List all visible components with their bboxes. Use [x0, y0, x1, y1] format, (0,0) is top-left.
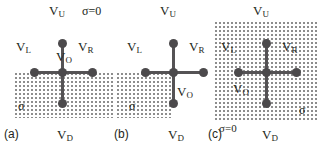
- figure-canvas: VU VL VR VO VD σ σ=0 (a): [0, 0, 319, 150]
- label-vr-a-text: V: [78, 39, 87, 54]
- label-vl-a-text: V: [16, 39, 25, 54]
- label-vl-b-sub: L: [136, 45, 142, 55]
- stipple-region-b: [115, 71, 173, 118]
- node-down-a: [58, 99, 67, 108]
- node-up-b: [169, 39, 178, 48]
- panel-c: VU VL VR VO VD σ σ=0 (c): [208, 0, 319, 150]
- node-left-b: [141, 68, 150, 77]
- node-up-a: [58, 39, 67, 48]
- label-vl-a: VL: [16, 40, 31, 53]
- label-vr-c: VR: [282, 40, 297, 53]
- label-vu-c-sub: U: [262, 9, 269, 19]
- label-vu-c-text: V: [253, 3, 262, 18]
- label-vo-c-text: V: [233, 81, 242, 96]
- label-sigma-zero-a: σ=0: [82, 5, 101, 17]
- label-vr-b: VR: [189, 40, 204, 53]
- label-vu-c: VU: [253, 4, 269, 17]
- label-vd-c-sub: D: [271, 133, 278, 143]
- label-vd-a: VD: [57, 128, 73, 141]
- label-vl-b: VL: [127, 40, 142, 53]
- label-vd-b: VD: [168, 128, 184, 141]
- label-vd-b-text: V: [168, 127, 177, 142]
- label-vl-a-sub: L: [25, 45, 31, 55]
- label-vd-c: VD: [262, 128, 278, 141]
- label-sigma-b: σ: [129, 100, 135, 112]
- panel-tag-a: (a): [4, 128, 19, 140]
- label-vo-a: VO: [56, 50, 72, 63]
- label-vl-b-text: V: [127, 39, 136, 54]
- label-vu-a-sub: U: [58, 9, 65, 19]
- node-right-c: [292, 68, 301, 77]
- label-vo-b: VO: [177, 85, 193, 98]
- panel-b: VU VL VR VO VD σ (b): [108, 0, 208, 150]
- label-vu-b: VU: [160, 4, 176, 17]
- label-sigma-c: σ: [299, 104, 305, 116]
- panel-tag-c: (c): [208, 128, 222, 140]
- label-vl-c-text: V: [221, 39, 230, 54]
- label-vo-c: VO: [233, 82, 249, 95]
- label-vd-a-text: V: [57, 127, 66, 142]
- label-vr-c-text: V: [282, 39, 291, 54]
- label-vo-a-text: V: [56, 49, 65, 64]
- label-vr-a-sub: R: [87, 45, 93, 55]
- label-vr-b-sub: R: [198, 45, 204, 55]
- label-vo-a-sub: O: [65, 55, 72, 65]
- label-vo-b-sub: O: [186, 90, 193, 100]
- label-vu-b-sub: U: [169, 9, 176, 19]
- label-vr-a: VR: [78, 40, 93, 53]
- label-vl-c-sub: L: [230, 45, 236, 55]
- node-center-b: [169, 68, 178, 77]
- label-vo-c-sub: O: [242, 87, 249, 97]
- label-vl-c: VL: [221, 40, 236, 53]
- node-center-c: [262, 68, 271, 77]
- node-down-c: [262, 99, 271, 108]
- label-vr-c-sub: R: [291, 45, 297, 55]
- node-right-b: [199, 68, 208, 77]
- label-vo-b-text: V: [177, 84, 186, 99]
- node-left-a: [30, 68, 39, 77]
- label-vd-a-sub: D: [66, 133, 73, 143]
- node-left-c: [234, 68, 243, 77]
- label-vu-a-text: V: [49, 3, 58, 18]
- label-vd-c-text: V: [262, 127, 271, 142]
- label-vu-a: VU: [49, 4, 65, 17]
- label-vu-b-text: V: [160, 3, 169, 18]
- panel-a: VU VL VR VO VD σ σ=0 (a): [0, 0, 108, 150]
- node-right-a: [88, 68, 97, 77]
- node-down-b: [169, 99, 178, 108]
- label-vd-b-sub: D: [177, 133, 184, 143]
- node-up-c: [262, 39, 271, 48]
- label-sigma-a: σ: [18, 100, 24, 112]
- node-center-a: [58, 68, 67, 77]
- panel-tag-b: (b): [114, 128, 129, 140]
- label-vr-b-text: V: [189, 39, 198, 54]
